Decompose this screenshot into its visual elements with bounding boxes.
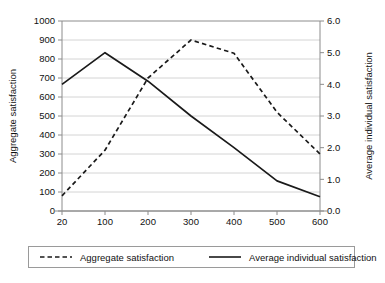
right-axis-tick-label: 5.0 xyxy=(327,47,340,58)
x-axis: 20100200300400500600 xyxy=(54,211,328,227)
left-axis-tick-label: 300 xyxy=(39,148,55,159)
chart-plot-area: 01002003004005006007008009001000 0.01.02… xyxy=(0,0,385,232)
left-axis-tick-label: 200 xyxy=(39,167,55,178)
right-axis-tick-label: 1.0 xyxy=(327,174,340,185)
left-axis-title: Aggregate satisfaction xyxy=(7,69,18,163)
left-axis: 01002003004005006007008009001000 xyxy=(34,15,62,216)
left-axis-tick-label: 1000 xyxy=(34,15,55,26)
x-axis-tick-label: 20 xyxy=(57,216,68,227)
x-axis-tick-label: 400 xyxy=(226,216,242,227)
x-axis-tick-label: 200 xyxy=(140,216,156,227)
legend-item-average-individual-satisfaction: Average individual satisfaction xyxy=(208,247,377,267)
right-axis-tick-label: 0.0 xyxy=(327,205,340,216)
left-axis-tick-label: 100 xyxy=(39,186,55,197)
left-axis-tick-label: 400 xyxy=(39,129,55,140)
x-axis-tick-label: 500 xyxy=(269,216,285,227)
right-axis-tick-label: 6.0 xyxy=(327,15,340,26)
left-axis-tick-label: 900 xyxy=(39,34,55,45)
left-axis-tick-label: 700 xyxy=(39,72,55,83)
legend-item-aggregate-satisfaction: Aggregate satisfaction xyxy=(39,247,174,267)
solid-line-icon xyxy=(208,252,242,262)
x-axis-tick-label: 100 xyxy=(97,216,113,227)
right-axis-tick-label: 3.0 xyxy=(327,110,340,121)
dashed-line-icon xyxy=(39,252,73,262)
x-axis-title: Persons present xyxy=(156,230,226,232)
chart-legend: Aggregate satisfaction Average individua… xyxy=(28,246,355,268)
right-axis-tick-label: 2.0 xyxy=(327,142,340,153)
left-axis-tick-label: 500 xyxy=(39,110,55,121)
right-axis-title: Average individual satisfaction xyxy=(363,52,374,180)
right-axis: 0.01.02.03.04.05.06.0 xyxy=(320,15,340,216)
right-axis-tick-label: 4.0 xyxy=(327,79,340,90)
x-axis-tick-label: 600 xyxy=(312,216,328,227)
line-chart-svg: 01002003004005006007008009001000 0.01.02… xyxy=(0,0,385,232)
series-line-1 xyxy=(62,40,320,196)
left-axis-tick-label: 600 xyxy=(39,91,55,102)
x-axis-tick-label: 300 xyxy=(183,216,199,227)
figure: 01002003004005006007008009001000 0.01.02… xyxy=(0,0,385,283)
legend-label-aggregate-satisfaction: Aggregate satisfaction xyxy=(80,252,174,263)
series-line-2 xyxy=(62,53,320,197)
legend-label-average-individual-satisfaction: Average individual satisfaction xyxy=(249,252,377,263)
left-axis-tick-label: 800 xyxy=(39,53,55,64)
